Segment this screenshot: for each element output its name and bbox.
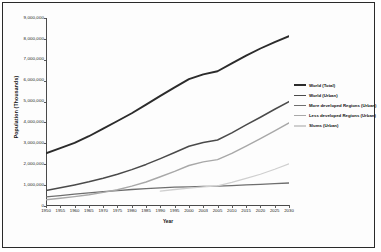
x-tick-mark bbox=[117, 205, 118, 208]
legend-label: Less developed Regions (Urban) bbox=[309, 113, 376, 118]
y-tick-label: 4,000,000 bbox=[2, 120, 44, 124]
x-tick-mark bbox=[275, 205, 276, 208]
y-tick-label: 8,000,000 bbox=[2, 37, 44, 41]
legend-label: More developed Regions (Urban) bbox=[309, 103, 376, 108]
plot-area bbox=[46, 18, 289, 206]
y-tick-label: 2,000,000 bbox=[2, 162, 44, 166]
legend-label: World (Total) bbox=[309, 83, 335, 88]
chart-legend: World (Total)World (Urban)More developed… bbox=[294, 80, 380, 131]
x-axis-title: Year bbox=[46, 219, 290, 224]
legend-item[interactable]: More developed Regions (Urban) bbox=[294, 100, 380, 110]
x-tick-mark bbox=[203, 205, 204, 208]
legend-label: Slums (Urban) bbox=[309, 123, 338, 128]
y-tick-label: 6,000,000 bbox=[2, 78, 44, 82]
y-tick-label: 7,000,000 bbox=[2, 57, 44, 61]
legend-swatch-icon bbox=[294, 125, 306, 126]
x-tick-mark bbox=[103, 205, 104, 208]
x-tick-mark bbox=[218, 205, 219, 208]
x-tick-mark bbox=[146, 205, 147, 208]
x-tick-mark bbox=[232, 205, 233, 208]
legend-item[interactable]: World (Total) bbox=[294, 80, 380, 90]
legend-swatch-icon bbox=[294, 84, 306, 86]
series-line bbox=[46, 123, 289, 200]
y-tick-label: 5,000,000 bbox=[2, 99, 44, 103]
x-tick-label: 2030 bbox=[278, 208, 300, 213]
x-tick-mark bbox=[260, 205, 261, 208]
legend-item[interactable]: Less developed Regions (Urban) bbox=[294, 111, 380, 121]
x-tick-mark bbox=[75, 205, 76, 208]
legend-swatch-icon bbox=[294, 105, 306, 106]
series-line bbox=[46, 36, 289, 153]
x-tick-mark bbox=[189, 205, 190, 208]
legend-item[interactable]: Slums (Urban) bbox=[294, 121, 380, 131]
legend-swatch-icon bbox=[294, 115, 306, 116]
legend-swatch-icon bbox=[294, 95, 306, 97]
series-lines bbox=[46, 18, 289, 206]
x-tick-mark bbox=[246, 205, 247, 208]
x-tick-mark bbox=[46, 205, 47, 208]
y-tick-label: 3,000,000 bbox=[2, 141, 44, 145]
y-tick-label: 1,000,000 bbox=[2, 183, 44, 187]
x-tick-mark bbox=[60, 205, 61, 208]
x-tick-mark bbox=[289, 205, 290, 208]
x-tick-mark bbox=[132, 205, 133, 208]
population-line-chart: 01,000,0002,000,0003,000,0004,000,0005,0… bbox=[0, 0, 381, 252]
x-tick-mark bbox=[160, 205, 161, 208]
y-axis-title: Population (Thousands) bbox=[13, 47, 19, 167]
x-tick-mark bbox=[89, 205, 90, 208]
y-tick-label: 9,000,000 bbox=[2, 16, 44, 20]
x-tick-mark bbox=[175, 205, 176, 208]
legend-label: World (Urban) bbox=[309, 93, 338, 98]
legend-item[interactable]: World (Urban) bbox=[294, 90, 380, 100]
